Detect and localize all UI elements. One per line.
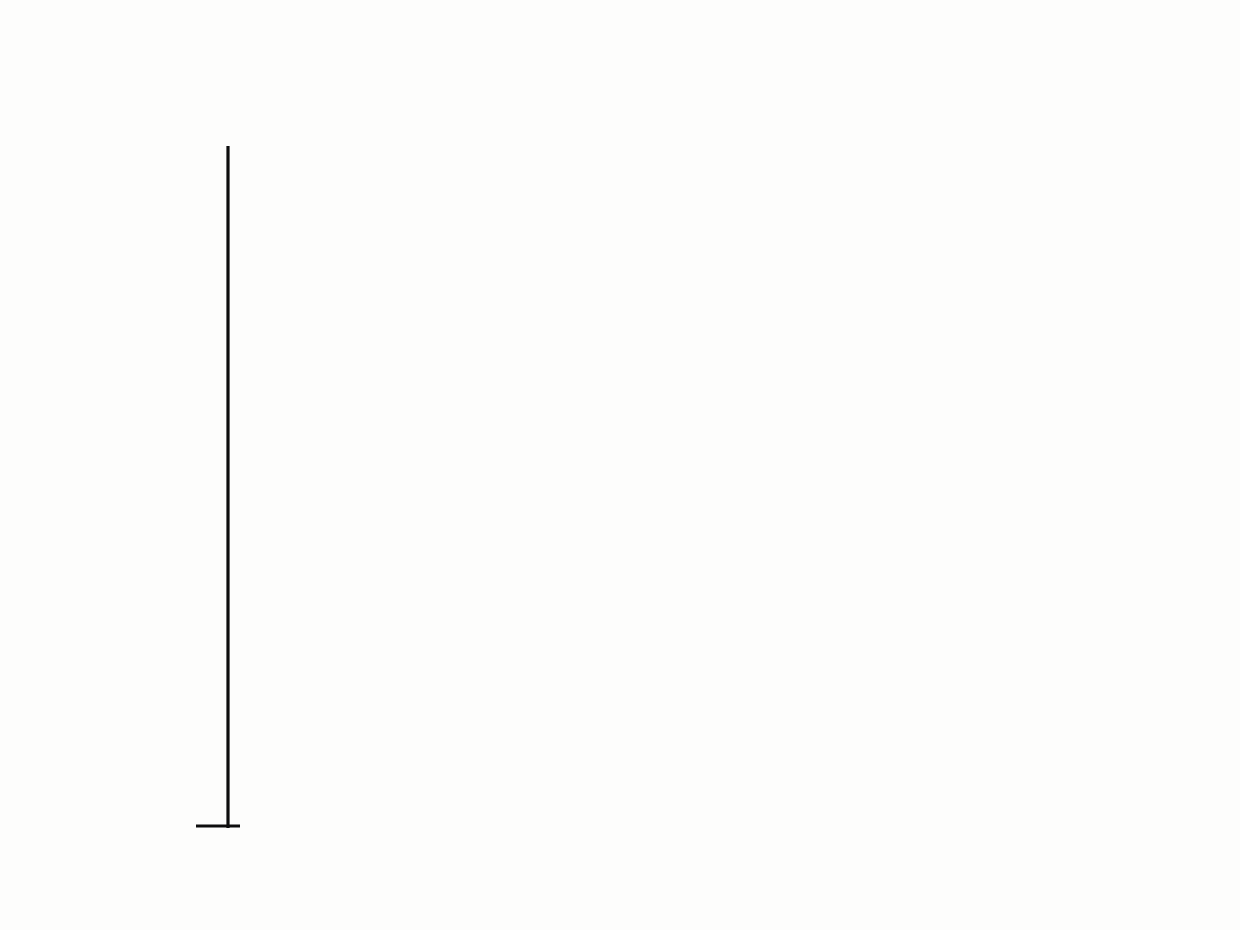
area-chart (0, 0, 1240, 930)
chart-page (0, 0, 1240, 930)
